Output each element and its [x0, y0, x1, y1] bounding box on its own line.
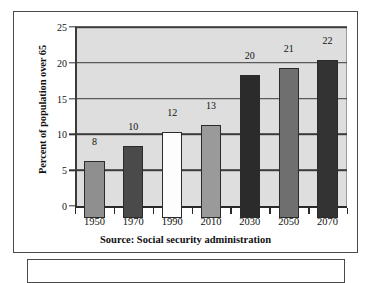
bar-value-label: 12 [167, 107, 177, 118]
y-tick-label: 25 [37, 22, 67, 33]
x-tick-mark [269, 208, 270, 214]
x-tick-mark [347, 208, 348, 214]
lower-empty-frame [27, 259, 345, 283]
bar-2050 [279, 68, 299, 218]
bar-value-label: 10 [128, 121, 138, 132]
source-caption: Source: Social security administration [14, 234, 357, 245]
y-tick-label: 15 [37, 93, 67, 104]
x-tick-mark [75, 208, 76, 214]
y-tick-label: 10 [37, 129, 67, 140]
bar-2010 [201, 125, 221, 218]
x-tick-mark [114, 208, 115, 214]
bar-1990 [162, 132, 182, 218]
figure-frame: Percent of population over 65 0510152025… [13, 11, 358, 253]
x-tick-mark [192, 208, 193, 214]
gridline [75, 26, 347, 28]
bar-1970 [123, 146, 143, 218]
y-tick-label: 20 [37, 57, 67, 68]
bar-value-label: 8 [92, 136, 97, 147]
y-tick-label: 0 [37, 201, 67, 212]
x-tick-mark [230, 208, 231, 214]
bar-value-label: 22 [323, 35, 333, 46]
bar-2030 [240, 75, 260, 218]
y-axis-line [75, 27, 77, 206]
x-tick-label-2070: 2070 [305, 216, 351, 227]
gridline [75, 62, 347, 64]
bar-value-label: 13 [206, 100, 216, 111]
y-tick-mark [69, 205, 76, 206]
bar-value-label: 20 [245, 50, 255, 61]
y-tick-label: 5 [37, 165, 67, 176]
bar-1950 [84, 161, 104, 218]
bar-2070 [317, 60, 337, 218]
x-tick-mark [153, 208, 154, 214]
x-tick-mark [308, 208, 309, 214]
chart-plot-area: 0510152025 8101213202122 195019701990201… [60, 27, 347, 218]
bar-value-label: 21 [284, 43, 294, 54]
